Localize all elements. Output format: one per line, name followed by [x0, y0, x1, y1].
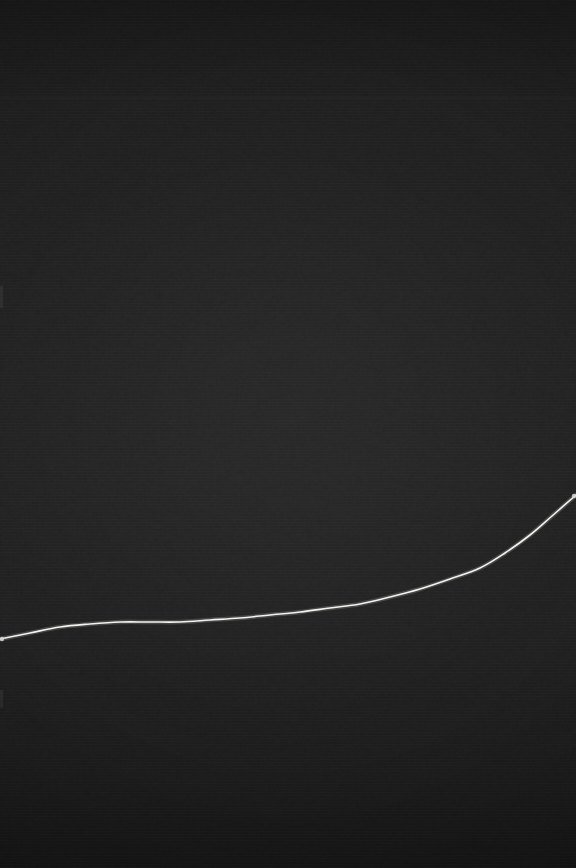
- curve-line-curve: [0, 495, 576, 639]
- image-canvas: [0, 0, 576, 868]
- curve-glow: [0, 495, 576, 639]
- curve-plot: [0, 0, 576, 868]
- series-group: [0, 495, 576, 639]
- right-edge-endpoint: [572, 494, 576, 498]
- endpoint-markers: [0, 494, 576, 641]
- left-edge-endpoint: [0, 637, 4, 641]
